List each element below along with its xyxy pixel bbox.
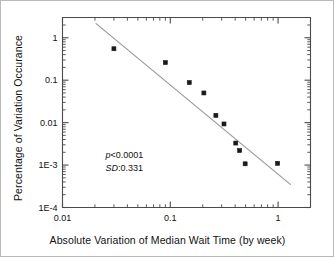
- axes-frame: [63, 18, 311, 208]
- y-axis-title: Percentage of Variation Occurance: [12, 18, 24, 218]
- annotation-text: <0.0001: [110, 150, 143, 160]
- data-point-marker: [214, 113, 218, 117]
- x-axis-title: Absolute Variation of Median Wait Time (…: [0, 234, 335, 246]
- annotation-symbol: SD: [105, 163, 118, 173]
- annotation-text: :0.331: [118, 163, 143, 173]
- annotation-p-value: p<0.0001: [105, 150, 143, 160]
- x-tick-label: 0.1: [164, 213, 177, 223]
- data-point-marker: [276, 161, 280, 165]
- chart-figure: 0.010.11 10.10.011E-31E-4 p<0.0001 SD:0.…: [0, 0, 335, 258]
- data-point-marker: [112, 47, 116, 51]
- x-tick-label: 0.01: [54, 213, 72, 223]
- data-point-marker: [187, 81, 191, 85]
- annotation-sd-value: SD:0.331: [105, 163, 143, 173]
- x-tick-label: 1: [276, 213, 281, 223]
- y-axis-ticks: [63, 18, 311, 208]
- x-axis-ticks: [63, 18, 311, 208]
- plot-frame: [63, 18, 311, 208]
- data-point-marker: [234, 141, 238, 145]
- data-point-marker: [243, 162, 247, 166]
- data-point-marker: [163, 61, 167, 65]
- data-point-marker: [202, 91, 206, 95]
- data-point-marker: [238, 149, 242, 153]
- data-point-marker: [222, 122, 226, 126]
